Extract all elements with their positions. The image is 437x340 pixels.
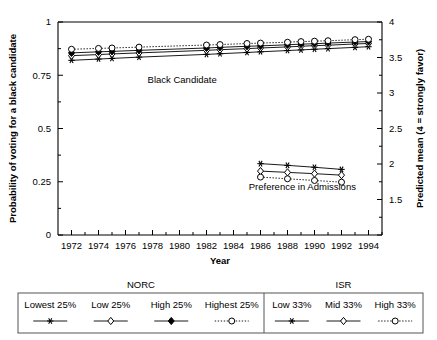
data-point-highest-25-	[109, 45, 115, 51]
data-point-mid-33-	[339, 172, 345, 179]
legend-label-norc-highest-25-: Highest 25%	[205, 299, 259, 310]
data-point-highest-25-	[244, 41, 250, 47]
y-axis-left-tick-label: 0.5	[38, 123, 51, 134]
data-point-highest-25-	[352, 37, 358, 43]
x-axis-tick-label: 1988	[277, 240, 298, 251]
data-point-highest-25-	[69, 46, 75, 52]
legend-marker-norc-high-25-	[168, 317, 174, 324]
data-point-low-33-	[284, 163, 290, 169]
x-axis-tick-label: 1974	[88, 240, 109, 251]
data-point-highest-25-	[204, 42, 210, 48]
data-point-highest-25-	[298, 39, 304, 45]
legend-group-title-norc: NORC	[127, 279, 155, 290]
data-point-mid-33-	[285, 169, 291, 176]
legend-group-title-isr: ISR	[336, 279, 352, 290]
data-point-highest-25-	[312, 38, 318, 44]
y-axis-left-tick-label: 0.25	[33, 176, 52, 187]
y-axis-left-tick-label: 0	[46, 229, 51, 240]
data-point-high-33-	[258, 174, 264, 180]
x-axis-tick-label: 1992	[331, 240, 352, 251]
series-line-low-33-	[261, 164, 342, 170]
data-point-low-33-	[311, 164, 317, 170]
y-axis-left-title: Probability of voting for a black candid…	[7, 34, 18, 223]
series-line-mid-33-	[261, 171, 342, 175]
x-axis-tick-label: 1994	[358, 240, 379, 251]
y-axis-right-tick-label: 2.5	[389, 123, 402, 134]
annotation-black-candidate: Black Candidate	[148, 74, 217, 85]
legend-marker-isr-high-33-	[392, 318, 398, 324]
chart-figure: 00.250.50.7511.522.533.54197219741976197…	[0, 0, 437, 340]
x-axis-tick-label: 1976	[115, 240, 136, 251]
y-axis-right-tick-label: 2	[389, 158, 394, 169]
x-axis-tick-label: 1986	[250, 240, 271, 251]
data-point-highest-25-	[285, 39, 291, 45]
y-axis-right-tick-label: 3	[389, 87, 394, 98]
legend-label-norc-lowest-25-: Lowest 25%	[24, 299, 76, 310]
legend-label-isr-low-33-: Low 33%	[272, 299, 312, 310]
legend-label-norc-low-25-: Low 25%	[91, 299, 131, 310]
x-axis-tick-label: 1984	[223, 240, 244, 251]
x-axis-title: Year	[210, 255, 230, 266]
y-axis-right-title: Predicted mean (4 = strongly favor)	[414, 49, 425, 208]
y-axis-right-tick-label: 4	[389, 16, 394, 27]
x-axis-tick-label: 1982	[196, 240, 217, 251]
x-axis-tick-label: 1972	[61, 240, 82, 251]
data-point-highest-25-	[258, 40, 264, 46]
legend-label-isr-mid-33-: Mid 33%	[325, 299, 363, 310]
x-axis-tick-label: 1990	[304, 240, 325, 251]
data-point-highest-25-	[217, 42, 223, 48]
data-point-highest-25-	[366, 36, 372, 42]
data-point-highest-25-	[325, 38, 331, 44]
data-point-low-33-	[257, 161, 263, 167]
y-axis-right-tick-label: 1.5	[389, 194, 402, 205]
legend-marker-norc-lowest-25-	[47, 318, 53, 324]
annotation-preference-in-admissions: Preference in Admissions	[249, 181, 356, 192]
legend-marker-isr-mid-33-	[341, 317, 347, 324]
x-axis-tick-label: 1980	[169, 240, 190, 251]
legend-marker-isr-low-33-	[289, 318, 295, 324]
data-point-highest-25-	[136, 44, 142, 50]
y-axis-left-tick-label: 0.75	[33, 70, 52, 81]
legend-label-norc-high-25-: High 25%	[151, 299, 193, 310]
legend-marker-norc-low-25-	[108, 317, 114, 324]
data-point-highest-25-	[96, 45, 102, 51]
chart-canvas: 00.250.50.7511.522.533.54197219741976197…	[0, 0, 437, 340]
legend-marker-norc-highest-25-	[229, 318, 235, 324]
legend-label-isr-high-33-: High 33%	[375, 299, 417, 310]
y-axis-right-tick-label: 3.5	[389, 52, 402, 63]
y-axis-left-tick-label: 1	[46, 16, 51, 27]
data-point-mid-33-	[312, 170, 318, 177]
x-axis-tick-label: 1978	[142, 240, 163, 251]
